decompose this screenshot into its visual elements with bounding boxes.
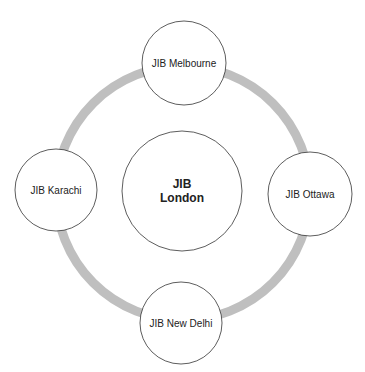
node-label-karachi: JIB Karachi [30, 185, 81, 196]
node-ottawa: JIB Ottawa [268, 152, 352, 236]
center-node-label-line-1: JIB [173, 177, 192, 191]
node-label-new-delhi: JIB New Delhi [150, 318, 213, 329]
center-node-london: JIB London [122, 131, 242, 251]
node-melbourne: JIB Melbourne [142, 21, 226, 105]
node-label-melbourne: JIB Melbourne [152, 58, 217, 69]
node-new-delhi: JIB New Delhi [140, 282, 222, 364]
jib-network-diagram: JIB London JIB Melbourne JIB Ottawa JIB … [0, 0, 365, 372]
node-label-ottawa: JIB Ottawa [286, 189, 335, 200]
node-karachi: JIB Karachi [15, 149, 97, 231]
center-node-label-line-2: London [160, 191, 204, 205]
